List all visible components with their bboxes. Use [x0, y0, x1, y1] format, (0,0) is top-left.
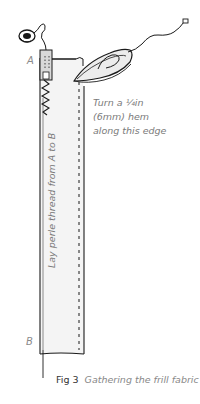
figure-number: Fig 3 [56, 374, 79, 385]
figure-caption: Fig 3 Gathering the frill fabric [56, 374, 199, 385]
hem-instruction-line-3: along this edge [93, 124, 200, 138]
point-b-label: B [26, 336, 33, 347]
point-a-label: A [27, 55, 34, 66]
hem-instruction-line-1: Turn a ¼in [93, 96, 200, 110]
hem-instruction-line-2: (6mm) hem [93, 110, 200, 124]
thread-instruction: Lay perle thread from A to B [46, 148, 60, 268]
power-cord-icon [128, 19, 188, 52]
presser-foot-icon [40, 50, 52, 80]
figure-title: Gathering the frill fabric [85, 374, 199, 385]
thread-spool-icon [19, 24, 46, 50]
hem-instruction: Turn a ¼in (6mm) hem along this edge [93, 96, 200, 138]
